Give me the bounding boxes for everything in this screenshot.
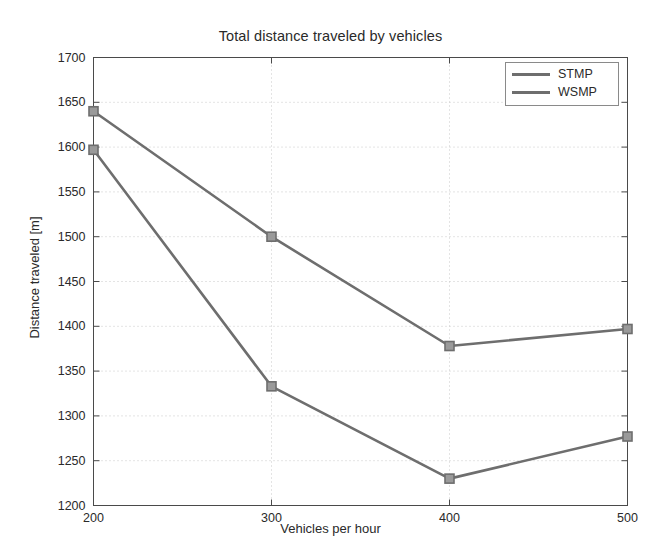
- data-point: [445, 342, 454, 351]
- x-tick-label: 200: [64, 512, 124, 525]
- chart-figure: Total distance traveled by vehicles Dist…: [0, 0, 661, 560]
- y-tick-label: 1650: [32, 96, 86, 109]
- data-point: [445, 474, 454, 483]
- legend-swatch-0: [512, 73, 550, 76]
- legend-item-0: STMP: [512, 66, 614, 82]
- y-tick-label: 1250: [32, 455, 86, 468]
- y-tick-label: 1550: [32, 186, 86, 199]
- legend: STMP WSMP: [505, 62, 619, 106]
- legend-label-1: WSMP: [558, 84, 597, 100]
- data-point: [89, 145, 98, 154]
- data-point: [267, 382, 276, 391]
- y-tick-label: 1200: [32, 500, 86, 513]
- legend-swatch-1: [512, 91, 550, 94]
- y-tick-label: 1300: [32, 410, 86, 423]
- x-tick-label: 400: [420, 512, 480, 525]
- y-tick-label: 1400: [32, 320, 86, 333]
- data-point: [89, 107, 98, 116]
- x-tick-label: 500: [598, 512, 658, 525]
- y-tick-label: 1500: [32, 231, 86, 244]
- y-tick-label: 1600: [32, 141, 86, 154]
- y-tick-label: 1350: [32, 365, 86, 378]
- x-tick-label: 300: [242, 512, 302, 525]
- data-series-layer: [89, 107, 632, 483]
- legend-label-0: STMP: [558, 66, 593, 82]
- y-tick-label: 1700: [32, 52, 86, 65]
- data-point: [267, 232, 276, 241]
- y-tick-label: 1450: [32, 276, 86, 289]
- data-point: [623, 432, 632, 441]
- gridlines: [94, 58, 628, 506]
- legend-item-1: WSMP: [512, 84, 614, 100]
- data-point: [623, 324, 632, 333]
